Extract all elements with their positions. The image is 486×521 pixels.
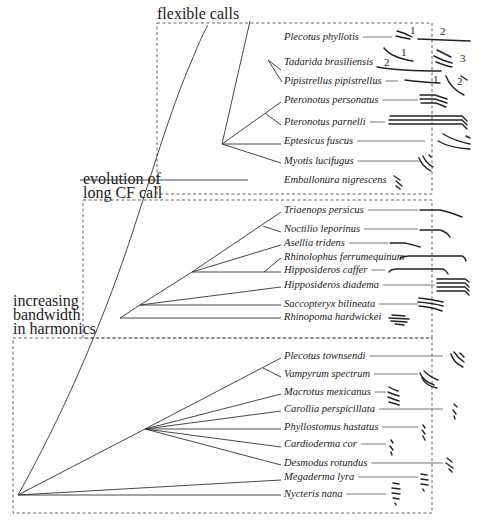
- species-label: Macrotus mexicanus: [283, 386, 371, 397]
- harmonic-number: 2: [440, 25, 446, 37]
- species-label: Rhinopoma hardwickei: [283, 311, 381, 322]
- species-label: Emballonura nigrescens: [283, 174, 387, 185]
- species-label: Vampyrum spectrum: [284, 368, 370, 379]
- species-label: Plecotus townsendi: [283, 350, 365, 361]
- species-label: Phyllostomus hastatus: [283, 421, 378, 432]
- harmonic-numbers: 1213212: [384, 24, 466, 87]
- harmonic-number: 2: [457, 75, 463, 87]
- harmonic-number: 1: [401, 46, 407, 58]
- species-label: Megaderma lyra: [283, 471, 354, 482]
- phylogeny-svg: flexible callsevolution oflong CF callin…: [0, 0, 486, 521]
- species-label: Eptesicus fuscus: [283, 135, 353, 146]
- species-label: Hipposideros diadema: [283, 279, 379, 290]
- species-label: Saccopteryx bilineata: [284, 298, 375, 309]
- phylogeny-figure: flexible callsevolution oflong CF callin…: [0, 0, 486, 521]
- species-label: Desmodus rotundus: [283, 457, 367, 468]
- group-label-long_cf: long CF call: [83, 184, 163, 202]
- species-label: Carollia perspicillata: [284, 403, 375, 414]
- call-sonograms: [377, 31, 470, 505]
- branch-flex-top: [222, 21, 250, 144]
- tree-branches: [18, 21, 282, 495]
- species-label: Asellia tridens: [283, 237, 345, 248]
- species-label: Nycteris nana: [283, 488, 343, 499]
- species-label: Plecotus phyllotis: [283, 31, 359, 42]
- harmonic-number: 2: [384, 56, 390, 68]
- species-label: Pteronotus personatus: [283, 94, 378, 105]
- group-label-flexible: flexible calls: [157, 5, 239, 22]
- species-label: Rhinolophus ferrumequinum: [283, 251, 405, 262]
- species-label: Triaenops persicus: [284, 204, 364, 215]
- group-box-flexible: [157, 23, 432, 194]
- harmonic-number: 1: [433, 73, 439, 85]
- species-label: Tadarida brasiliensis: [284, 56, 373, 67]
- harmonic-number: 1: [410, 24, 416, 36]
- species-label: Myotis lucifugus: [283, 155, 354, 166]
- species-label: Noctilio leporinus: [283, 223, 360, 234]
- species-label: Pipistrellus pipistrellus: [283, 75, 382, 86]
- species-label: Hipposideros caffer: [283, 264, 368, 275]
- species-labels: Plecotus phyllotisTadarida brasiliensisP…: [283, 31, 443, 499]
- harmonic-number: 3: [460, 52, 466, 64]
- species-label: Cardioderma cor: [284, 438, 358, 449]
- group-label-bandwidth: in harmonics: [13, 320, 96, 337]
- species-label: Pteronotus parnelli: [283, 116, 366, 127]
